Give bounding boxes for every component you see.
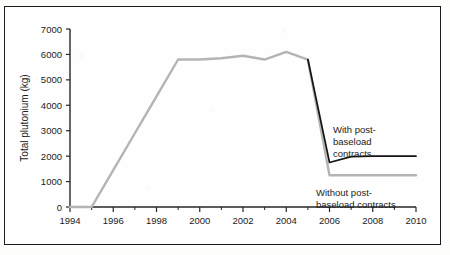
- x-tick-label: 2008: [362, 215, 383, 226]
- annotation-with-line3: contracts: [333, 148, 372, 159]
- figure-container: 01000200030004000500060007000 1994199619…: [0, 0, 450, 255]
- annotation-with-line1: With post-: [333, 124, 376, 135]
- y-tick-label: 7000: [41, 24, 62, 35]
- y-tick-label: 2000: [41, 151, 62, 162]
- y-axis-title: Total plutonium (kg): [19, 74, 30, 161]
- y-tick-label: 5000: [41, 74, 62, 85]
- y-tick-label: 3000: [41, 125, 62, 136]
- y-axis-tick-labels: 01000200030004000500060007000: [41, 24, 62, 213]
- y-tick-label: 1000: [41, 176, 62, 187]
- annotation-without-line2: baseload contracts: [316, 199, 396, 210]
- x-tick-label: 1998: [146, 215, 167, 226]
- annotation-without-line1: Without post-: [316, 187, 372, 198]
- x-tick-label: 2002: [232, 215, 253, 226]
- annotation-with-post-baseload: With post- baseload contracts: [333, 124, 376, 159]
- x-tick-label: 2000: [189, 215, 210, 226]
- x-axis-tick-labels: 199419961998200020022004200620082010: [59, 215, 426, 226]
- x-tick-label: 2006: [319, 215, 340, 226]
- x-tick-label: 1996: [103, 215, 124, 226]
- annotation-without-post-baseload: Without post- baseload contracts: [316, 187, 396, 210]
- y-tick-label: 0: [57, 202, 62, 213]
- annotation-with-line2: baseload: [333, 136, 372, 147]
- x-tick-label: 2004: [276, 215, 297, 226]
- y-tick-label: 4000: [41, 100, 62, 111]
- y-tick-label: 6000: [41, 49, 62, 60]
- x-tick-label: 1994: [59, 215, 80, 226]
- x-tick-label: 2010: [405, 215, 426, 226]
- chart-svg: 01000200030004000500060007000 1994199619…: [0, 0, 450, 255]
